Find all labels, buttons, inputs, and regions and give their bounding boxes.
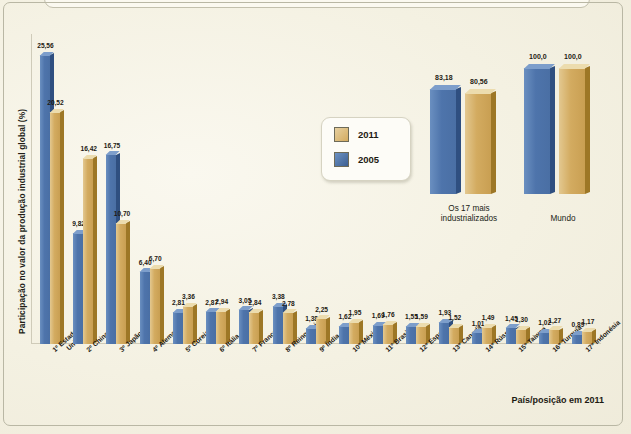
bar-front [116,223,126,344]
bar-group: 6,406,70 [133,34,166,344]
bar-front [406,326,416,344]
bar-group: 25,5620,52 [33,34,66,344]
bar-2005[interactable]: 6,40 [140,272,150,344]
bar-2005[interactable]: 2,87 [206,312,216,344]
bar-group: 9,8216,42 [66,34,99,344]
bar-value-label: 2,84 [249,299,262,306]
legend-item-2011[interactable]: 2011 [334,127,379,142]
bar-front [173,312,183,344]
bar-group: 2,813,36 [166,34,199,344]
bar-group: 1,382,25 [299,34,332,344]
bar-front [273,306,283,344]
bar-front [339,326,349,344]
bar-2011[interactable]: 3,36 [183,306,193,344]
bar-side [60,110,64,344]
bar-2005[interactable]: 1,38 [306,328,316,344]
bar-value-label: 2,94 [215,298,228,305]
bar-front [73,233,83,344]
bar-2011[interactable]: 16,42 [83,158,93,344]
bar-2005[interactable]: 1,93 [439,322,449,344]
bar-2011[interactable]: 2,25 [316,319,326,344]
bar-side [491,91,496,194]
bar-front [306,328,316,344]
bar-side [585,66,590,194]
legend-item-2005[interactable]: 2005 [334,152,379,167]
bar-value-label: 25,56 [37,42,54,49]
inset-bar-chart: 83,1880,56Os 17 maisindustrializados100,… [424,58,610,230]
bar-2005[interactable]: 2,81 [173,312,183,344]
bar-front [183,306,193,344]
inset-x-tick-label: Mundo [524,214,602,224]
bar-value-label: 20,52 [47,99,64,106]
bar-top [524,64,555,69]
legend-swatch-2005 [334,152,349,167]
bar-group: 3,382,78 [266,34,299,344]
bar-2011[interactable]: 10,70 [116,223,126,344]
inset-bar-2011[interactable]: 100,0 [559,68,585,194]
bar-2005[interactable]: 1,01 [472,333,482,344]
chart-legend: 2011 2005 [321,117,411,181]
bar-top [430,85,461,90]
bar-2005[interactable]: 1,02 [539,332,549,344]
bar-value-label: 3,36 [182,293,195,300]
inset-bar-group: 83,1880,56 [430,58,508,194]
bar-front [283,313,293,344]
bar-value-label: 1,59 [415,313,428,320]
bar-group: 1,621,95 [333,34,366,344]
inset-bar-2005[interactable]: 83,18 [430,89,456,194]
bar-front [216,311,226,344]
bar-group: 3,052,84 [233,34,266,344]
inset-x-tick-label: Os 17 maisindustrializados [430,204,508,225]
bar-front [106,155,116,344]
bar-2011[interactable]: 2,94 [216,311,226,344]
bar-front [430,89,456,194]
bar-2005[interactable]: 9,82 [73,233,83,344]
bar-front [150,268,160,344]
inset-bar-value-label: 100,0 [564,53,582,60]
bar-2005[interactable]: 1,69 [373,325,383,344]
bar-front [465,93,491,194]
bar-front [249,312,259,344]
bar-front [239,310,249,344]
legend-swatch-2011 [334,127,349,142]
bar-2011[interactable]: 2,78 [283,313,293,344]
bar-group: 1,691,76 [366,34,399,344]
bar-group: 16,7510,70 [100,34,133,344]
bar-value-label: 16,75 [104,142,121,149]
bar-value-label: 1,27 [548,317,561,324]
legend-label-2011: 2011 [358,129,379,140]
bar-value-label: 1,49 [482,314,495,321]
bar-2005[interactable]: 3,05 [239,310,249,344]
bar-2011[interactable]: 20,52 [50,112,60,344]
bar-value-label: 10,70 [114,210,131,217]
bar-front [439,322,449,344]
inset-bar-value-label: 100,0 [529,53,547,60]
legend-label-2005: 2005 [358,154,379,165]
bar-2005[interactable]: 3,38 [273,306,283,344]
inset-bar-value-label: 83,18 [435,74,453,81]
inset-bar-value-label: 80,56 [470,78,488,85]
bar-top [465,89,496,94]
bar-front [140,272,150,344]
bar-front [539,332,549,344]
bar-front [50,112,60,344]
bar-2011[interactable]: 2,84 [249,312,259,344]
inset-bar-group: 100,0100,0 [524,58,602,194]
bar-2005[interactable]: 1,55 [406,326,416,344]
bar-value-label: 16,42 [80,145,97,152]
bar-2005[interactable]: 1,45 [506,328,516,344]
x-axis-caption: País/posição em 2011 [511,395,604,405]
bar-front [373,325,383,344]
figure-page: Participação no valor da produção indust… [0,0,631,434]
bar-value-label: 1,76 [382,311,395,318]
inset-bar-2011[interactable]: 80,56 [465,93,491,194]
inset-bar-2005[interactable]: 100,0 [524,68,550,194]
bar-2005[interactable]: 16,75 [106,155,116,344]
bar-2005[interactable]: 1,62 [339,326,349,344]
bar-front [524,68,550,194]
bar-front [83,158,93,344]
bar-2011[interactable]: 6,70 [150,268,160,344]
bar-side [93,157,97,344]
bar-value-label: 1,95 [349,309,362,316]
bar-2005[interactable]: 0,89 [572,334,582,344]
